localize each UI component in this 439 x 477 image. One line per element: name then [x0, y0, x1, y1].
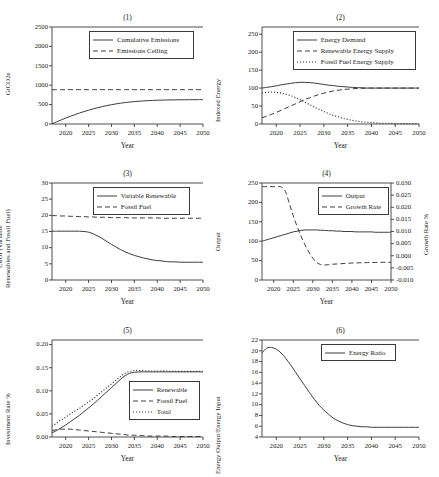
panel-1-ytick: 1500 [8, 62, 48, 69]
panel-4-legend-item: Growth Rate [319, 201, 388, 212]
panel-1-xtick: 2020 [53, 129, 79, 136]
panel-2-xtick: 2050 [406, 129, 432, 136]
panel-4-ytick: 0 [218, 276, 258, 283]
panel-3-xlabel: Year [52, 297, 203, 306]
panel-3-plot-area [0, 0, 439, 477]
figure-panel-grid: (1)0500100015002000250020202025203020352… [0, 0, 439, 477]
panel-4-ytick-right: 0.000 [396, 252, 411, 259]
panel-5-xtick: 2040 [144, 442, 170, 449]
panel-6-ytick: 14 [218, 379, 258, 386]
panel-5-legend-item: Renewable [130, 384, 199, 395]
panel-3-title: (3) [52, 169, 203, 178]
panel-6-ytick: 10 [218, 400, 258, 407]
legend-label: Emissions Ceiling [117, 47, 167, 54]
panel-3-ytick: 10 [8, 243, 48, 250]
panel-1-title: (1) [52, 13, 203, 22]
panel-3-series-line [52, 231, 203, 262]
panel-6-ytick: 12 [218, 390, 258, 397]
legend-line-icon [325, 349, 345, 357]
panel-6-xtick: 2050 [406, 442, 432, 449]
legend-line-icon [133, 397, 153, 405]
panel-5-series-line [52, 370, 203, 426]
panel-3-xtick: 2050 [190, 285, 216, 292]
panel-1-legend-item: Emissions Ceiling [90, 45, 193, 56]
panel-3-xtick: 2040 [144, 285, 170, 292]
panel-4-plot-area [0, 0, 439, 477]
panel-1-ytick: 2000 [8, 42, 48, 49]
panel-1-xlabel: Year [52, 141, 203, 150]
legend-line-icon [133, 386, 153, 394]
panel-4-series-line [262, 230, 391, 241]
panel-6-xlabel: Year [262, 454, 419, 463]
panel-5-xtick: 2020 [53, 442, 79, 449]
panel-6-legend-item: Energy Ratio [322, 347, 395, 358]
panel-5-ytick: 0.20 [8, 340, 48, 347]
panel-5-xlabel: Year [52, 454, 203, 463]
panel-4-xtick: 2020 [261, 285, 287, 292]
legend-line-icon [93, 36, 113, 44]
panel-4-xtick: 2045 [358, 285, 384, 292]
panel-1-ylabel: GtCO2e [4, 73, 11, 96]
panel-4-ytick-right: -0.010 [396, 276, 413, 283]
panel-5-legend: RenewableFossil FuelTotal [129, 381, 200, 420]
panel-5-xtick: 2025 [76, 442, 102, 449]
panel-1-xtick: 2030 [98, 129, 124, 136]
panel-4-xtick: 2025 [280, 285, 306, 292]
panel-1-xtick: 2025 [76, 129, 102, 136]
panel-3-legend-item: Fossil Fuel [94, 201, 190, 212]
panel-2-xtick: 2020 [263, 129, 289, 136]
panel-3-series-line [52, 216, 203, 219]
panel-2-ytick: 0 [218, 120, 258, 127]
panel-2-ytick: 150 [218, 66, 258, 73]
panel-4-xtick: 2050 [378, 285, 404, 292]
panel-4-ytick: 50 [218, 256, 258, 263]
panel-4-legend-item: Output [319, 190, 388, 201]
panel-2-legend-item: Fossil Fuel Energy Supply [294, 56, 416, 67]
panel-2-legend-item: Renewable Energy Supply [294, 45, 416, 56]
legend-label: Renewable [157, 386, 188, 393]
panel-4-xtick: 2040 [339, 285, 365, 292]
panel-2-legend-item: Energy Demand [294, 34, 416, 45]
panel-5-series-line [52, 372, 203, 433]
panel-5-xtick: 2030 [98, 442, 124, 449]
panel-4-series-line [262, 187, 391, 265]
panel-6-xtick: 2040 [358, 442, 384, 449]
panel-3-ylabel: Renewables and Fossil Fuel) [4, 209, 11, 288]
panel-6-ytick: 20 [218, 347, 258, 354]
panel-2-ytick: 200 [218, 48, 258, 55]
panel-4-ylabel: Output [214, 232, 221, 251]
panel-6-plot-area [0, 0, 439, 477]
panel-3-ytick: 0 [8, 276, 48, 283]
panel-2-series-line [262, 88, 419, 118]
panel-1-xtick: 2045 [167, 129, 193, 136]
legend-line-icon [97, 192, 117, 200]
panel-2-ytick: 50 [218, 102, 258, 109]
panel-3-xtick: 2035 [121, 285, 147, 292]
panel-1-ytick: 0 [8, 120, 48, 127]
legend-line-icon [297, 36, 317, 44]
panel-6-xtick: 2025 [287, 442, 313, 449]
legend-label: Energy Ratio [349, 349, 385, 356]
legend-label: Fossil Fuel [157, 397, 187, 404]
panel-3-xtick: 2045 [167, 285, 193, 292]
panel-6-ytick: 18 [218, 357, 258, 364]
panel-4-ytick: 150 [218, 218, 258, 225]
panel-4-xtick: 2035 [319, 285, 345, 292]
panel-5-title: (5) [52, 326, 203, 335]
panel-4: (4)0501001502002500.0300.0250.0200.0150.… [0, 0, 439, 477]
panel-2-xtick: 2025 [287, 129, 313, 136]
panel-1-legend-item: Cumulative Emissions [90, 34, 193, 45]
panel-1-series-line [52, 100, 203, 124]
legend-label: Renewable Energy Supply [321, 47, 394, 54]
panel-5-ylabel: Investment Rate % [4, 393, 11, 445]
panel-1: (1)0500100015002000250020202025203020352… [0, 0, 439, 477]
panel-5-ytick: 0.15 [8, 364, 48, 371]
panel-5-plot-area [0, 0, 439, 477]
panel-2-legend: Energy DemandRenewable Energy SupplyFoss… [293, 31, 417, 70]
panel-5-series-line [52, 429, 203, 436]
panel-3-ytick: 20 [8, 211, 48, 218]
panel-6-legend: Energy Ratio [321, 344, 396, 361]
panel-5-xtick: 2045 [167, 442, 193, 449]
legend-line-icon [297, 58, 317, 66]
panel-4-ytick-right: 0.005 [396, 239, 411, 246]
